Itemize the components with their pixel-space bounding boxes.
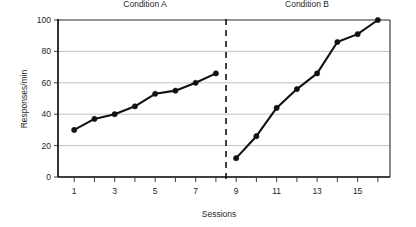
x-axis-title: Sessions xyxy=(202,209,237,219)
x-tick-labels: 13579111315 xyxy=(72,186,363,196)
condition-b-label: Condition B xyxy=(285,0,329,9)
y-tick-label: 40 xyxy=(42,109,52,119)
x-tick-label: 5 xyxy=(153,186,158,196)
y-axis xyxy=(54,19,58,177)
data-point-marker xyxy=(92,116,97,121)
y-tick-labels: 020406080100 xyxy=(37,15,51,182)
data-point-marker xyxy=(193,80,198,85)
y-tick-label: 80 xyxy=(42,46,52,56)
y-axis-title: Responses/min xyxy=(19,69,29,128)
data-point-marker xyxy=(335,39,340,44)
x-tick-label: 11 xyxy=(272,186,281,196)
data-point-marker xyxy=(213,71,218,76)
data-point-marker xyxy=(315,71,320,76)
x-tick-label: 13 xyxy=(312,186,322,196)
plot-frame xyxy=(58,20,390,177)
line-chart: 020406080100 13579111315 Condition ACond… xyxy=(0,0,416,227)
data-point-marker xyxy=(375,17,380,22)
data-point-marker xyxy=(234,156,239,161)
data-point-marker xyxy=(355,32,360,37)
data-point-marker xyxy=(274,105,279,110)
data-series xyxy=(72,71,219,133)
data-point-marker xyxy=(132,104,137,109)
chart-figure: 020406080100 13579111315 Condition ACond… xyxy=(0,0,416,227)
x-axis xyxy=(58,177,390,182)
gridlines xyxy=(58,51,390,145)
data-point-marker xyxy=(294,86,299,91)
x-tick-label: 3 xyxy=(112,186,117,196)
data-point-marker xyxy=(153,91,158,96)
data-series xyxy=(234,17,381,160)
y-tick-label: 0 xyxy=(46,172,51,182)
x-tick-label: 15 xyxy=(353,186,363,196)
data-point-marker xyxy=(72,127,77,132)
y-tick-label: 20 xyxy=(42,141,52,151)
data-point-marker xyxy=(254,134,259,139)
x-tick-label: 7 xyxy=(193,186,198,196)
x-tick-label: 9 xyxy=(234,186,239,196)
y-tick-label: 100 xyxy=(37,15,51,25)
y-tick-label: 60 xyxy=(42,78,52,88)
x-tick-label: 1 xyxy=(72,186,77,196)
condition-labels-group: Condition ACondition B xyxy=(123,0,329,9)
condition-a-label: Condition A xyxy=(123,0,167,9)
data-point-marker xyxy=(112,112,117,117)
data-point-marker xyxy=(173,88,178,93)
